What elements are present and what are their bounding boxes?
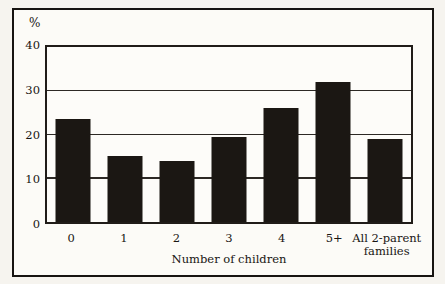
y-axis-tick-label: 10: [14, 172, 40, 186]
y-axis-unit-label: %: [29, 16, 40, 30]
bar-slot: [255, 47, 307, 222]
y-axis-tick-label: 20: [14, 128, 40, 142]
plot-area: [45, 45, 413, 224]
y-axis-tick-label: 0: [14, 217, 40, 231]
bar-slot: [203, 47, 255, 222]
y-axis-tick-label: 40: [14, 38, 40, 52]
bar-slot: [151, 47, 203, 222]
bar-1: [108, 156, 143, 222]
bar-All 2-parent families: [368, 139, 403, 222]
y-axis-tick-label: 30: [14, 83, 40, 97]
chart-frame: % Number of children 010203040012345+All…: [12, 8, 434, 277]
bar-slot: [47, 47, 99, 222]
bar-slot: [99, 47, 151, 222]
bar-slot: [359, 47, 411, 222]
bar-slot: [307, 47, 359, 222]
bar-0: [56, 119, 91, 222]
bar-4: [264, 108, 299, 222]
bars-row: [47, 47, 411, 222]
bar-2: [160, 161, 195, 222]
bar-5+: [316, 82, 351, 222]
bar-3: [212, 137, 247, 222]
x-axis-category-label: All 2-parent families: [345, 232, 429, 257]
